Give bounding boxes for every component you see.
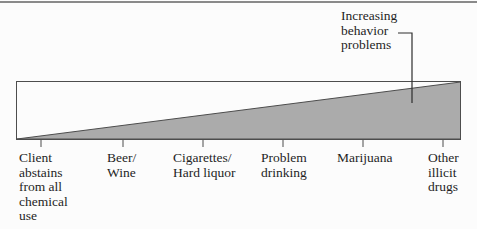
severity-wedge-triangle [17,82,461,139]
scale-label-marijuana: Marijuana [337,151,392,166]
scale-label-other-illicit-drugs: Other illicit drugs [428,151,459,195]
scale-label-client-abstains: Client abstains from all chemical use [19,151,68,224]
annotation-increasing-behavior-problems: Increasing behavior problems [341,9,397,53]
continuum-diagram [0,0,477,229]
scale-label-cigarettes-hard-liquor: Cigarettes/ Hard liquor [173,151,236,180]
scale-label-problem-drinking: Problem drinking [261,151,307,180]
tick-marks [41,140,443,147]
scale-label-beer-wine: Beer/ Wine [107,151,136,180]
figure-continuum-of-drug-use: Increasing behavior problems Client abst… [0,0,477,229]
